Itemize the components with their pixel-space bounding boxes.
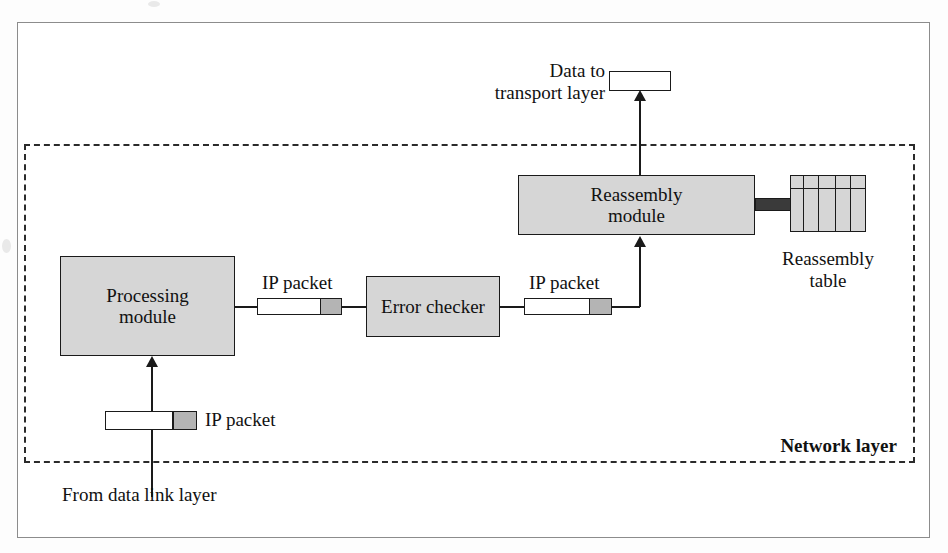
reassembly-table-divider-4 xyxy=(850,176,851,231)
diagram-canvas: Network layer Data totransport layer Rea… xyxy=(0,0,948,553)
reassembly-table-label-line2: table xyxy=(810,270,847,291)
reassembly-table-label: Reassemblytable xyxy=(756,248,900,292)
data-to-transport-box xyxy=(609,71,671,91)
ip-packet-3-label: IP packet xyxy=(205,409,276,431)
reassembly-table-divider-3 xyxy=(835,176,836,231)
processing-module: Processing module xyxy=(60,256,235,356)
data-to-transport-label: Data totransport layer xyxy=(420,60,605,104)
scan-artifact-top xyxy=(148,1,160,7)
error-checker-label: Error checker xyxy=(381,296,485,317)
reassembly-table-label-line1: Reassembly xyxy=(782,248,874,269)
packet2-to-reassembly-arrowhead xyxy=(634,236,646,247)
reassembly-table-connector xyxy=(755,198,791,211)
scan-artifact-left xyxy=(2,239,11,253)
ip-packet-1-label: IP packet xyxy=(262,272,333,294)
error-checker-module: Error checker xyxy=(366,276,500,337)
reassembly-table-divider-2 xyxy=(818,176,819,231)
ip-packet-1-header xyxy=(320,298,342,315)
reassembly-table-divider-1 xyxy=(803,176,804,231)
ip-packet-2-header xyxy=(589,298,612,315)
reassembly-to-transport-arrowhead xyxy=(634,90,646,101)
packet1-to-error-checker-line xyxy=(341,306,367,308)
packet2-riser-line xyxy=(639,246,641,307)
reassembly-module-line2: module xyxy=(608,205,665,226)
from-data-link-layer-label: From data link layer xyxy=(62,484,217,506)
processing-module-line2: module xyxy=(119,306,176,327)
ip-packet-2-payload xyxy=(524,298,590,315)
ip-packet-3-payload xyxy=(105,411,173,430)
data-link-input-line xyxy=(151,366,153,497)
data-to-transport-line2: transport layer xyxy=(495,82,605,103)
ip-packet-2-label: IP packet xyxy=(529,272,600,294)
data-link-input-arrowhead xyxy=(146,356,158,367)
packet2-to-riser-line xyxy=(611,306,640,308)
reassembly-module-line1: Reassembly xyxy=(591,184,683,205)
processing-to-packet1-line xyxy=(235,306,258,308)
processing-module-line1: Processing xyxy=(106,285,188,306)
ip-packet-1-payload xyxy=(257,298,321,315)
reassembly-table xyxy=(790,175,866,232)
reassembly-to-transport-line xyxy=(639,96,641,175)
network-layer-label: Network layer xyxy=(742,435,897,457)
reassembly-module: Reassembly module xyxy=(518,175,755,235)
error-checker-to-packet2-line xyxy=(500,306,525,308)
data-to-transport-line1: Data to xyxy=(550,60,605,81)
ip-packet-3-header xyxy=(173,411,197,430)
